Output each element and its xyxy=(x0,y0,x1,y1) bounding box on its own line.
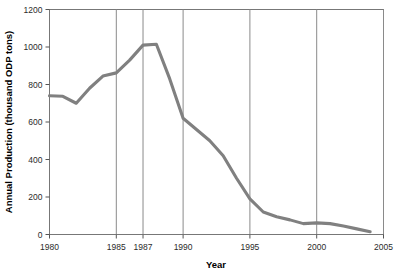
y-tick-label-600: 600 xyxy=(28,117,42,127)
plot-area-frame xyxy=(50,10,384,235)
x-axis: 1980198519871990199520002005 xyxy=(40,235,393,252)
data-series-group xyxy=(50,44,371,232)
x-axis-title: Year xyxy=(206,259,226,270)
chart-canvas: 020040060080010001200 198019851987199019… xyxy=(0,0,396,274)
x-tick-label-2005: 2005 xyxy=(374,242,393,252)
y-tick-label-0: 0 xyxy=(38,230,43,240)
y-tick-label-1000: 1000 xyxy=(24,42,43,52)
y-axis-title: Annual Production (thousand ODP tons) xyxy=(3,31,14,213)
x-tick-label-1985: 1985 xyxy=(107,242,126,252)
x-tick-label-1987: 1987 xyxy=(134,242,153,252)
y-tick-label-400: 400 xyxy=(28,155,42,165)
y-tick-label-200: 200 xyxy=(28,192,42,202)
x-tick-label-1990: 1990 xyxy=(174,242,193,252)
y-tick-label-1200: 1200 xyxy=(24,5,43,15)
line-chart-figure: 020040060080010001200 198019851987199019… xyxy=(0,0,396,274)
series-line-0 xyxy=(50,44,371,232)
x-tick-label-2000: 2000 xyxy=(307,242,326,252)
y-axis: 020040060080010001200 xyxy=(24,5,50,240)
x-tick-label-1980: 1980 xyxy=(40,242,59,252)
x-tick-label-1995: 1995 xyxy=(240,242,259,252)
y-tick-label-800: 800 xyxy=(28,80,42,90)
